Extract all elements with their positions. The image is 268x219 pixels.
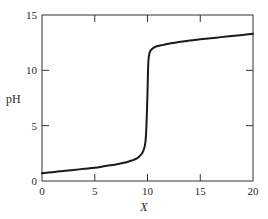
x-tick-label: 20 bbox=[248, 185, 260, 197]
chart-canvas: 05101520 051015 pH X bbox=[0, 0, 268, 219]
x-tick-label: 0 bbox=[39, 185, 45, 197]
x-tick-label: 5 bbox=[92, 185, 98, 197]
ph-curve-line bbox=[42, 34, 253, 173]
y-tick-label: 5 bbox=[32, 120, 38, 132]
x-axis-label: X bbox=[139, 200, 148, 214]
x-tick-labels: 05101520 bbox=[39, 185, 259, 197]
y-tick-label: 0 bbox=[32, 175, 38, 187]
x-tick-label: 10 bbox=[142, 185, 154, 197]
y-tick-label: 15 bbox=[26, 9, 38, 21]
y-tick-label: 10 bbox=[26, 64, 38, 76]
x-tick-label: 15 bbox=[195, 185, 207, 197]
titration-chart: 05101520 051015 pH X bbox=[0, 0, 268, 219]
y-axis-label: pH bbox=[6, 92, 21, 106]
y-tick-labels: 051015 bbox=[26, 9, 38, 187]
